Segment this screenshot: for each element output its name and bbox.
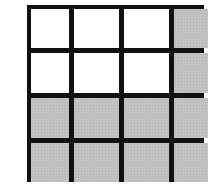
unshaded-cell-r1-c3 bbox=[124, 9, 169, 48]
shaded-cell-r3-c3 bbox=[124, 98, 169, 138]
shaded-cell-r4-c3 bbox=[124, 143, 169, 182]
shaded-cell-r4-c1 bbox=[31, 143, 69, 182]
shaded-cell-r3-c1 bbox=[31, 98, 69, 138]
unshaded-cell-r2-c1 bbox=[31, 53, 69, 93]
shaded-cell-r1-c4 bbox=[174, 9, 208, 48]
unshaded-cell-r1-c1 bbox=[31, 9, 69, 48]
shaded-cell-r4-c2 bbox=[74, 143, 119, 182]
shaded-cell-r3-c4 bbox=[174, 98, 208, 138]
unshaded-cell-r2-c3 bbox=[124, 53, 169, 93]
figure-canvas bbox=[0, 0, 214, 188]
shaded-cell-r2-c4 bbox=[174, 53, 208, 93]
square-grid bbox=[27, 5, 204, 182]
unshaded-cell-r1-c2 bbox=[74, 9, 119, 48]
shaded-cell-r3-c2 bbox=[74, 98, 119, 138]
shaded-cell-r4-c4 bbox=[174, 143, 208, 182]
unshaded-cell-r2-c2 bbox=[74, 53, 119, 93]
